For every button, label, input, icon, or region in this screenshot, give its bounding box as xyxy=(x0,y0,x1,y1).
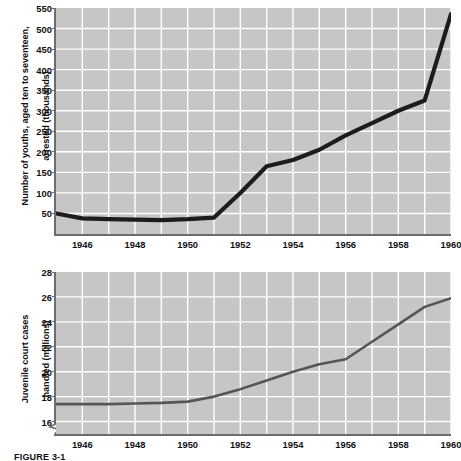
figure-caption: FIGURE 3-1 xyxy=(14,452,66,461)
x-tick-label: 1948 xyxy=(125,439,146,450)
x-tick-label: 1958 xyxy=(388,239,409,250)
plot-svg-court-cases xyxy=(56,272,451,434)
y-tick-label: 300 xyxy=(36,105,52,116)
y-tick-label: 28 xyxy=(42,267,52,278)
y-tick-label: 500 xyxy=(36,23,52,34)
x-tick-label: 1950 xyxy=(177,239,198,250)
y-tick-label: 24 xyxy=(42,316,52,327)
x-axis-ticks-court-cases: 19461948195019521954195619581960 xyxy=(0,439,461,453)
y-axis-ticks-court-cases: 16182022242628 xyxy=(18,262,52,437)
plot-area-arrests xyxy=(56,8,451,234)
x-tick-label: 1954 xyxy=(283,239,304,250)
x-tick-label: 1952 xyxy=(230,239,251,250)
y-tick-label: 400 xyxy=(36,64,52,75)
x-tick-label: 1948 xyxy=(125,239,146,250)
y-tick-label: 22 xyxy=(42,341,52,352)
x-tick-label: 1956 xyxy=(335,439,356,450)
x-axis-ticks-arrests: 19461948195019521954195619581960 xyxy=(0,239,461,253)
chart-juvenile-court-cases: Juvenile court cases handled (millions) … xyxy=(0,262,461,452)
x-tick-label: 1952 xyxy=(230,439,251,450)
x-tick-label: 1958 xyxy=(388,439,409,450)
x-axis-line-arrests xyxy=(54,234,451,236)
x-tick-label: 1950 xyxy=(177,439,198,450)
y-tick-label: 200 xyxy=(36,146,52,157)
x-tick-label: 1954 xyxy=(283,439,304,450)
y-axis-ticks-arrests: 50100150200250300350400450500550 xyxy=(18,0,52,235)
y-tick-label: 100 xyxy=(36,187,52,198)
x-tick-label: 1960 xyxy=(441,239,461,250)
x-axis-line-court-cases xyxy=(54,434,451,436)
x-tick-label: 1960 xyxy=(441,439,461,450)
x-tick-label: 1956 xyxy=(335,239,356,250)
y-tick-label: 250 xyxy=(36,126,52,137)
figure-container: Number of youths, aged ten to seventeen,… xyxy=(0,0,461,461)
y-tick-label: 26 xyxy=(42,291,52,302)
y-tick-label: 20 xyxy=(42,366,52,377)
plot-area-court-cases xyxy=(56,272,451,434)
y-tick-label: 450 xyxy=(36,44,52,55)
y-tick-label: 150 xyxy=(36,167,52,178)
x-tick-label: 1946 xyxy=(72,239,93,250)
y-tick-label: 550 xyxy=(36,3,52,14)
x-tick-label: 1946 xyxy=(72,439,93,450)
plot-svg-arrests xyxy=(56,8,451,234)
y-tick-label: 50 xyxy=(42,208,52,219)
y-tick-label: 18 xyxy=(42,391,52,402)
chart-youth-arrests: Number of youths, aged ten to seventeen,… xyxy=(0,0,461,255)
y-tick-label: 350 xyxy=(36,85,52,96)
